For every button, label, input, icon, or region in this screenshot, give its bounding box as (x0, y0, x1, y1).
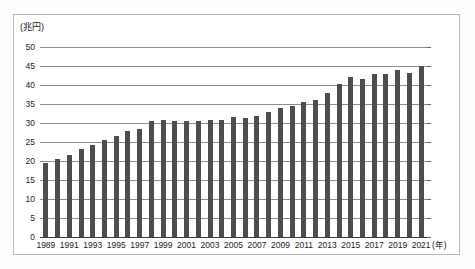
bar-2006 (243, 118, 248, 237)
y-tick-mark-35 (427, 104, 431, 105)
y-tick-label-40: 40 (26, 81, 35, 90)
bar-1997 (137, 129, 142, 237)
y-tick-label-25: 25 (26, 138, 35, 147)
x-tick-label-1995: 1995 (107, 240, 126, 250)
bar-2003 (208, 120, 213, 237)
plot-area: 50454035302520151050 (40, 47, 427, 237)
bar-2018 (383, 74, 388, 237)
bar-1989 (43, 163, 48, 237)
x-axis-unit-label: (年) (432, 240, 447, 250)
x-tick-label-1993: 1993 (83, 240, 102, 250)
bar-2000 (172, 121, 177, 237)
bar-2001 (184, 121, 189, 237)
bar-series (40, 47, 427, 237)
bar-2012 (313, 100, 318, 237)
x-tick-label-2011: 2011 (295, 240, 313, 250)
y-tick-mark-50 (427, 47, 431, 48)
bar-2015 (348, 77, 353, 237)
x-tick-label-1999: 1999 (154, 240, 173, 250)
x-tick-label-2003: 2003 (201, 240, 220, 250)
y-tick-label-45: 45 (26, 62, 35, 71)
bar-2021 (419, 66, 424, 237)
bar-2011 (301, 102, 306, 237)
bar-2016 (360, 79, 365, 237)
x-tick-label-2015: 2015 (341, 240, 360, 250)
bar-2007 (254, 116, 259, 237)
y-tick-label-10: 10 (26, 195, 35, 204)
bar-1990 (55, 159, 60, 237)
bar-2008 (266, 112, 271, 237)
bar-1992 (79, 149, 84, 237)
x-tick-label-2001: 2001 (177, 240, 196, 250)
bar-1996 (125, 131, 130, 237)
bar-1995 (114, 136, 119, 237)
bar-2005 (231, 117, 236, 237)
bar-1993 (90, 145, 95, 237)
y-tick-label-20: 20 (26, 157, 35, 166)
bar-2017 (372, 74, 377, 237)
bar-2009 (278, 108, 283, 237)
bar-2019 (395, 70, 400, 237)
bar-1991 (67, 155, 72, 237)
bar-2013 (325, 93, 330, 237)
x-tick-label-2009: 2009 (271, 240, 290, 250)
chart-figure: (兆円) 50454035302520151050 19891991199319… (0, 0, 475, 269)
y-axis-unit-label: (兆円) (20, 20, 44, 33)
gridline-0: 0 (40, 237, 427, 238)
bar-1998 (149, 121, 154, 237)
x-tick-label-1997: 1997 (130, 240, 149, 250)
y-tick-label-0: 0 (30, 233, 35, 242)
y-tick-mark-30 (427, 123, 431, 124)
y-tick-mark-45 (427, 66, 431, 67)
x-tick-label-1989: 1989 (36, 240, 55, 250)
bar-2002 (196, 121, 201, 237)
y-tick-mark-5 (427, 218, 431, 219)
x-axis-tick-labels: 1989199119931995199719992001200320052007… (40, 240, 427, 254)
x-tick-label-2007: 2007 (247, 240, 266, 250)
y-tick-mark-20 (427, 161, 431, 162)
bar-1994 (102, 140, 107, 237)
x-tick-label-1991: 1991 (60, 240, 79, 250)
bar-2014 (337, 84, 342, 237)
y-tick-label-35: 35 (26, 100, 35, 109)
x-tick-label-2021: 2021 (412, 240, 431, 250)
x-tick-label-2017: 2017 (365, 240, 384, 250)
bar-1999 (161, 120, 166, 237)
y-tick-mark-0 (427, 237, 431, 238)
x-tick-label-2013: 2013 (318, 240, 337, 250)
x-tick-label-2005: 2005 (224, 240, 243, 250)
bar-2020 (407, 73, 412, 237)
bar-2010 (290, 106, 295, 237)
y-tick-mark-15 (427, 180, 431, 181)
y-tick-label-50: 50 (26, 43, 35, 52)
y-tick-mark-10 (427, 199, 431, 200)
x-tick-label-2019: 2019 (388, 240, 407, 250)
y-tick-mark-25 (427, 142, 431, 143)
y-tick-label-5: 5 (30, 214, 35, 223)
y-tick-mark-40 (427, 85, 431, 86)
bar-2004 (219, 120, 224, 237)
y-tick-label-15: 15 (26, 176, 35, 185)
y-tick-label-30: 30 (26, 119, 35, 128)
